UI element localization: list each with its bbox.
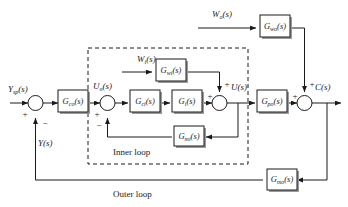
signal-label-wi: Wi(s) bbox=[137, 54, 156, 65]
sign-inner-dist-plus-left: + bbox=[207, 91, 212, 101]
signal-label-uo: Uo(s) bbox=[93, 81, 112, 92]
sign-inner-sum-minus: − bbox=[96, 120, 101, 130]
gci-block-label: Gci(s) bbox=[135, 96, 155, 107]
sign-outer-sum-minus: − bbox=[42, 118, 47, 128]
signal-label-ysp: Ysp(s) bbox=[8, 84, 28, 95]
sum-outer-error bbox=[28, 96, 43, 111]
sum-inner-error bbox=[100, 96, 115, 111]
sign-outer-sum-plus: + bbox=[22, 109, 27, 119]
wire-c-tap-to-gmo bbox=[297, 103, 327, 180]
sign-inner-sum-plus: + bbox=[94, 109, 99, 119]
signal-label-y: Y(s) bbox=[38, 138, 53, 148]
signal-label-u: U(s) bbox=[231, 82, 247, 92]
signal-label-wo: Wo(s) bbox=[212, 9, 232, 20]
sum-inner-disturbance bbox=[212, 96, 227, 111]
signal-label-c: C(s) bbox=[315, 82, 331, 92]
sum-outer-disturbance bbox=[297, 96, 312, 111]
outer-loop-label: Outer loop bbox=[113, 189, 152, 199]
sign-outer-dist-plus-left: + bbox=[292, 91, 297, 101]
sign-outer-dist-plus-top: + bbox=[309, 79, 314, 89]
sign-inner-dist-plus-top: + bbox=[224, 79, 229, 89]
gi-block-label: Gi(s) bbox=[179, 96, 196, 107]
block-diagram-figure: Gco(s) Gci(s) Gi(s) Gwi(s) Gmi(s) Gwo(s)… bbox=[0, 0, 348, 207]
wire-gwi-to-inner-dist-sum bbox=[186, 72, 220, 92]
wire-gwo-to-outer-dist-sum bbox=[290, 28, 305, 92]
inner-loop-label: Inner loop bbox=[113, 147, 151, 157]
block-diagram-canvas: Gco(s) Gci(s) Gi(s) Gwi(s) Gmi(s) Gwo(s)… bbox=[0, 0, 348, 207]
wire-gmi-to-inner-sum bbox=[108, 118, 173, 137]
